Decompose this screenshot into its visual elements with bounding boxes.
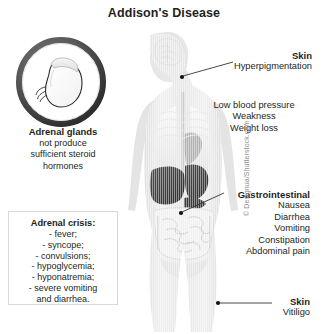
vitals-line-2: Weakness [232, 111, 275, 121]
adrenal-glands-line-1: not produce [39, 138, 87, 148]
human-body-anatomy-illustration [88, 30, 238, 334]
gi-line-3: Vomiting [274, 223, 310, 233]
vitals-line-3: Weight loss [230, 123, 278, 133]
gi-line-5: Abdominal pain [246, 246, 310, 256]
label-general-symptoms: Low blood pressure Weakness Weight loss [196, 100, 312, 134]
adrenal-glands-line-3: hormones [43, 161, 83, 171]
label-gastrointestinal: Gastrointestinal Nausea Diarrhea Vomitin… [198, 189, 310, 257]
gi-line-2: Diarrhea [274, 212, 310, 222]
vitals-line-1: Low blood pressure [213, 100, 294, 110]
label-skin-hyperpigmentation: Skin Hyperpigmentation [188, 50, 312, 73]
skin-bottom-line-1: Vitiligo [283, 307, 310, 317]
gi-line-4: Constipation [258, 235, 310, 245]
skin-bottom-heading: Skin [198, 296, 310, 307]
adrenal-glands-line-2: sufficient steroid [31, 149, 96, 159]
skin-top-heading: Skin [188, 50, 312, 61]
gi-line-1: Nausea [278, 200, 310, 210]
diagram-canvas: Addison's Disease [0, 0, 328, 334]
page-title: Addison's Disease [0, 6, 328, 20]
copyright-credit: © Designua/Shutterstock.com [243, 56, 250, 216]
gi-heading: Gastrointestinal [198, 189, 310, 200]
label-skin-vitiligo: Skin Vitiligo [198, 296, 310, 319]
